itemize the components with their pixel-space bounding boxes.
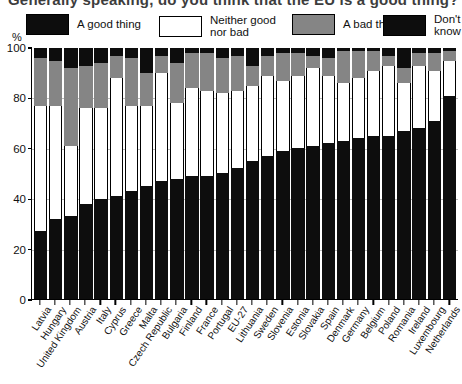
segment-bad	[64, 68, 77, 146]
segment-bad	[110, 56, 123, 79]
bar-eu-27[interactable]	[231, 48, 244, 299]
segment-bad	[216, 58, 229, 93]
segment-bad	[170, 63, 183, 103]
segment-good	[261, 156, 274, 299]
y-tick-label-0: 0	[20, 294, 26, 306]
segment-dk	[216, 48, 229, 58]
bar-poland[interactable]	[382, 48, 395, 299]
segment-good	[337, 141, 350, 299]
segment-dk	[306, 48, 319, 56]
segment-good	[443, 96, 456, 299]
page-title: Generally speaking, do you think that th…	[8, 0, 459, 8]
segment-neither	[125, 106, 138, 191]
segment-dk	[64, 48, 77, 68]
segment-bad	[337, 51, 350, 84]
segment-dk	[382, 48, 395, 56]
legend-label-neither: Neither good nor bad	[210, 14, 276, 38]
bar-ireland[interactable]	[412, 48, 425, 299]
segment-bad	[231, 56, 244, 91]
segment-good	[185, 176, 198, 299]
segment-bad	[443, 51, 456, 61]
segment-bad	[34, 58, 47, 106]
segment-good	[306, 146, 319, 299]
segment-neither	[200, 91, 213, 176]
segment-dk	[49, 48, 62, 61]
segment-neither	[443, 61, 456, 96]
bar-portugal[interactable]	[216, 48, 229, 299]
y-tick-label-80: 80	[13, 92, 26, 104]
segment-neither	[110, 78, 123, 196]
y-tick-label-60: 60	[13, 143, 26, 155]
bar-malta[interactable]	[140, 48, 153, 299]
segment-bad	[291, 53, 304, 76]
segment-dk	[231, 48, 244, 56]
segment-bad	[125, 58, 138, 106]
legend-swatch-neither-icon	[159, 16, 202, 37]
segment-neither	[170, 103, 183, 178]
y-tick-label-100: 100	[7, 42, 26, 54]
bar-bulgaria[interactable]	[170, 48, 183, 299]
segment-bad	[261, 56, 274, 76]
segment-neither	[49, 106, 62, 219]
segment-neither	[185, 88, 198, 176]
bar-romania[interactable]	[397, 48, 410, 299]
y-tick-label-40: 40	[13, 193, 26, 205]
legend-item-neither: Neither good nor bad	[159, 14, 276, 38]
segment-neither	[412, 66, 425, 129]
segment-good	[79, 204, 92, 299]
segment-bad	[200, 53, 213, 91]
segment-good	[216, 173, 229, 299]
bar-luxembourg[interactable]	[428, 48, 441, 299]
segment-good	[200, 176, 213, 299]
bar-italy[interactable]	[94, 48, 107, 299]
bar-cyprus[interactable]	[110, 48, 123, 299]
bar-series-container	[32, 48, 458, 299]
segment-good	[412, 128, 425, 299]
chart-page: Generally speaking, do you think that th…	[0, 0, 462, 384]
segment-neither	[34, 106, 47, 232]
bar-finland[interactable]	[185, 48, 198, 299]
bar-austria[interactable]	[79, 48, 92, 299]
segment-dk	[170, 48, 183, 63]
bar-denmark[interactable]	[337, 48, 350, 299]
bar-sweden[interactable]	[261, 48, 274, 299]
bar-spain[interactable]	[322, 48, 335, 299]
bar-germany[interactable]	[352, 48, 365, 299]
segment-good	[382, 136, 395, 299]
y-axis-labels: 020406080100	[0, 48, 29, 300]
segment-dk	[246, 48, 259, 66]
segment-good	[276, 151, 289, 299]
segment-neither	[397, 83, 410, 131]
legend-label-dontknow: Don't know	[434, 14, 461, 37]
chart-legend: A good thing Neither good nor bad A bad …	[26, 12, 458, 42]
segment-good	[231, 168, 244, 299]
segment-neither	[246, 86, 259, 161]
segment-bad	[49, 61, 62, 106]
segment-bad	[79, 66, 92, 109]
bar-france[interactable]	[200, 48, 213, 299]
bar-slovenia[interactable]	[276, 48, 289, 299]
bar-estonia[interactable]	[291, 48, 304, 299]
bar-slovakia[interactable]	[306, 48, 319, 299]
bar-greece[interactable]	[125, 48, 138, 299]
segment-bad	[367, 51, 380, 71]
segment-dk	[125, 48, 138, 58]
segment-neither	[231, 91, 244, 169]
segment-good	[397, 131, 410, 299]
segment-neither	[322, 76, 335, 144]
legend-item-good: A good thing	[26, 14, 141, 35]
segment-bad	[397, 68, 410, 83]
segment-bad	[322, 58, 335, 76]
segment-neither	[79, 108, 92, 203]
segment-good	[291, 148, 304, 299]
bar-united-kingdom[interactable]	[64, 48, 77, 299]
bar-lithuania[interactable]	[246, 48, 259, 299]
segment-neither	[261, 76, 274, 156]
bar-hungary[interactable]	[49, 48, 62, 299]
bar-latvia[interactable]	[34, 48, 47, 299]
x-axis-labels: LatviaHungaryUnited KingdomAustriaItalyC…	[31, 305, 458, 384]
segment-bad	[306, 56, 319, 69]
bar-netherlands[interactable]	[443, 48, 456, 299]
bar-czech-republic[interactable]	[155, 48, 168, 299]
bar-belgium[interactable]	[367, 48, 380, 299]
